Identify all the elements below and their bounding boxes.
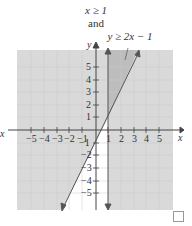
svg-text:−3: −3 [52, 133, 63, 144]
svg-text:1: 1 [106, 133, 111, 144]
svg-text:−4: −4 [39, 133, 50, 144]
svg-text:−1: −1 [79, 137, 90, 148]
svg-text:−3: −3 [81, 162, 92, 173]
svg-text:x: x [0, 128, 5, 139]
svg-text:2: 2 [86, 99, 91, 110]
svg-text:−2: −2 [64, 133, 75, 144]
svg-text:1: 1 [86, 111, 91, 122]
answer-checkbox[interactable] [173, 211, 184, 222]
svg-text:5: 5 [86, 61, 91, 72]
inequality-graph: −5−4−3 −2−1 123 45 543 21 −1−2−3 −4−5 y … [0, 0, 192, 226]
svg-text:x: x [177, 132, 183, 143]
svg-text:3: 3 [132, 133, 137, 144]
svg-text:−2: −2 [81, 149, 92, 160]
svg-text:−5: −5 [81, 187, 92, 198]
svg-text:3: 3 [86, 86, 91, 97]
svg-text:4: 4 [86, 74, 91, 85]
svg-text:−4: −4 [81, 175, 92, 186]
svg-text:−5: −5 [26, 133, 37, 144]
svg-text:5: 5 [157, 133, 162, 144]
svg-text:4: 4 [144, 133, 149, 144]
svg-text:2: 2 [119, 133, 124, 144]
svg-text:y: y [86, 39, 92, 50]
